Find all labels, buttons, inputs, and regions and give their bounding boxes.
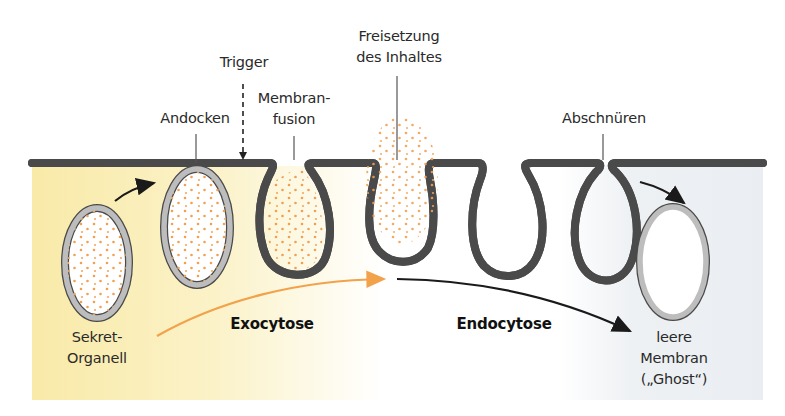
- label-ghost-line2: Membran: [626, 350, 722, 367]
- label-endocytose: Endocytose: [452, 316, 556, 333]
- label-ghost-line1: leere: [626, 329, 722, 346]
- label-sekret-line2: Organell: [52, 350, 142, 367]
- empty-membrane-ghost: [640, 207, 706, 317]
- label-sekret-line1: Sekret-: [52, 329, 142, 346]
- label-ghost-line3: („Ghost“): [626, 371, 722, 388]
- secretory-organelle: [65, 208, 129, 318]
- label-abschnueren: Abschnüren: [552, 110, 656, 127]
- label-freisetzung-line1: Freisetzung: [344, 28, 454, 45]
- label-freisetzung: Freisetzung des Inhaltes: [344, 28, 454, 66]
- docked-organelle: [164, 169, 230, 285]
- label-andocken: Andocken: [150, 110, 240, 127]
- released-contents: [366, 116, 438, 244]
- label-exocytose: Exocytose: [222, 316, 322, 333]
- label-trigger: Trigger: [212, 54, 276, 71]
- label-membranfusion-line1: Membran-: [248, 90, 340, 107]
- label-membranfusion: Membran- fusion: [248, 90, 340, 128]
- label-membranfusion-line2: fusion: [248, 111, 340, 128]
- label-freisetzung-line2: des Inhaltes: [344, 49, 454, 66]
- label-ghost: leere Membran („Ghost“): [626, 329, 722, 388]
- label-sekret-organell: Sekret- Organell: [52, 329, 142, 367]
- trigger-arrowhead-icon: [239, 152, 247, 160]
